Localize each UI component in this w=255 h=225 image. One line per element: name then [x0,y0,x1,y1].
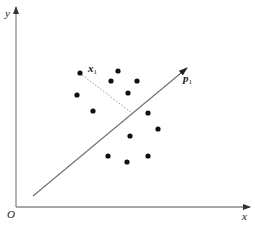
data-point [74,92,79,97]
data-point [115,68,120,73]
projection-line-x1 [82,75,132,113]
origin-label: O [7,208,15,220]
data-point [90,108,95,113]
data-point [124,159,129,164]
point-x1 [77,70,82,75]
data-point [105,153,110,158]
data-point [108,78,113,83]
data-point [145,110,150,115]
y-axis-label: y [4,7,10,19]
data-point [127,133,132,138]
point-x1-label: x1 [87,62,98,76]
data-point [145,153,150,158]
data-point [155,126,160,131]
x-axis-label: x [241,210,247,222]
data-point [125,90,130,95]
point-x1-label-sub: 1 [94,68,98,76]
vector-p1-label-sub: 1 [189,78,193,86]
data-point [134,78,139,83]
projection-diagram: y x O p1 x1 [0,0,255,225]
vector-p1-label: p1 [182,72,193,86]
vector-p1 [33,68,187,196]
